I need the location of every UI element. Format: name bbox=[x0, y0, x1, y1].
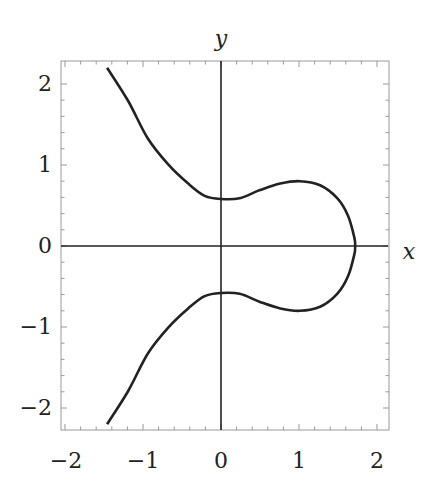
curve-upper-branch bbox=[107, 68, 355, 246]
x-tick-label: 2 bbox=[370, 448, 384, 473]
y-tick-label: 1 bbox=[38, 152, 52, 177]
x-tick-label: −2 bbox=[50, 448, 82, 473]
x-axis-label: x bbox=[403, 239, 416, 264]
y-tick-label: 2 bbox=[38, 71, 52, 96]
curve-lower-branch bbox=[107, 246, 355, 424]
x-tick-label: −1 bbox=[127, 448, 159, 473]
chart: y x −2 −1 0 1 2 2 1 0 −1 −2 bbox=[0, 0, 436, 491]
y-tick-label: 0 bbox=[38, 233, 52, 258]
x-tick-label: 0 bbox=[214, 448, 228, 473]
x-tick-label: 1 bbox=[292, 448, 306, 473]
y-axis-label: y bbox=[214, 26, 228, 51]
y-tick-label: −2 bbox=[20, 395, 52, 420]
y-tick-label: −1 bbox=[20, 314, 52, 339]
